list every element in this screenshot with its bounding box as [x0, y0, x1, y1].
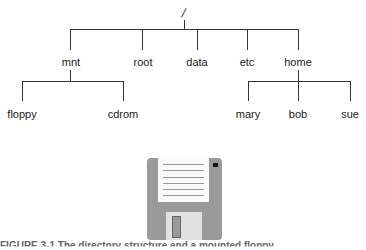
node-data: data [186, 56, 207, 68]
edge-bob [298, 81, 299, 101]
node-home: home [284, 56, 312, 68]
disk-label [158, 158, 209, 202]
node-root: root [134, 56, 153, 68]
node-mary: mary [236, 108, 260, 120]
node-cdrom: cdrom [108, 108, 139, 120]
edge-root [142, 29, 143, 50]
figure-caption: FIGURE 3-1 The directory structure and a… [0, 240, 274, 250]
edge-data [197, 29, 198, 50]
root-node: / [180, 6, 187, 20]
node-bob: bob [289, 108, 307, 120]
edge-mnt [70, 29, 71, 50]
edge-sue [350, 81, 351, 101]
home-bar [248, 81, 351, 82]
edge-home [298, 29, 299, 50]
node-etc: etc [240, 56, 255, 68]
edge-etc [247, 29, 248, 50]
home-stem [298, 70, 299, 81]
disk-shutter [166, 212, 202, 240]
mnt-stem [70, 70, 71, 81]
mnt-bar [22, 81, 124, 82]
edge-cdrom [123, 81, 124, 101]
floppy-disk-icon [147, 158, 222, 240]
node-mnt: mnt [62, 56, 80, 68]
root-stem [184, 20, 185, 29]
shutter-slot [172, 216, 181, 238]
node-sue: sue [341, 108, 359, 120]
write-protect-tab [213, 163, 218, 167]
level1-bar [70, 29, 299, 30]
edge-floppy [22, 81, 23, 101]
edge-mary [248, 81, 249, 101]
node-floppy: floppy [7, 108, 36, 120]
